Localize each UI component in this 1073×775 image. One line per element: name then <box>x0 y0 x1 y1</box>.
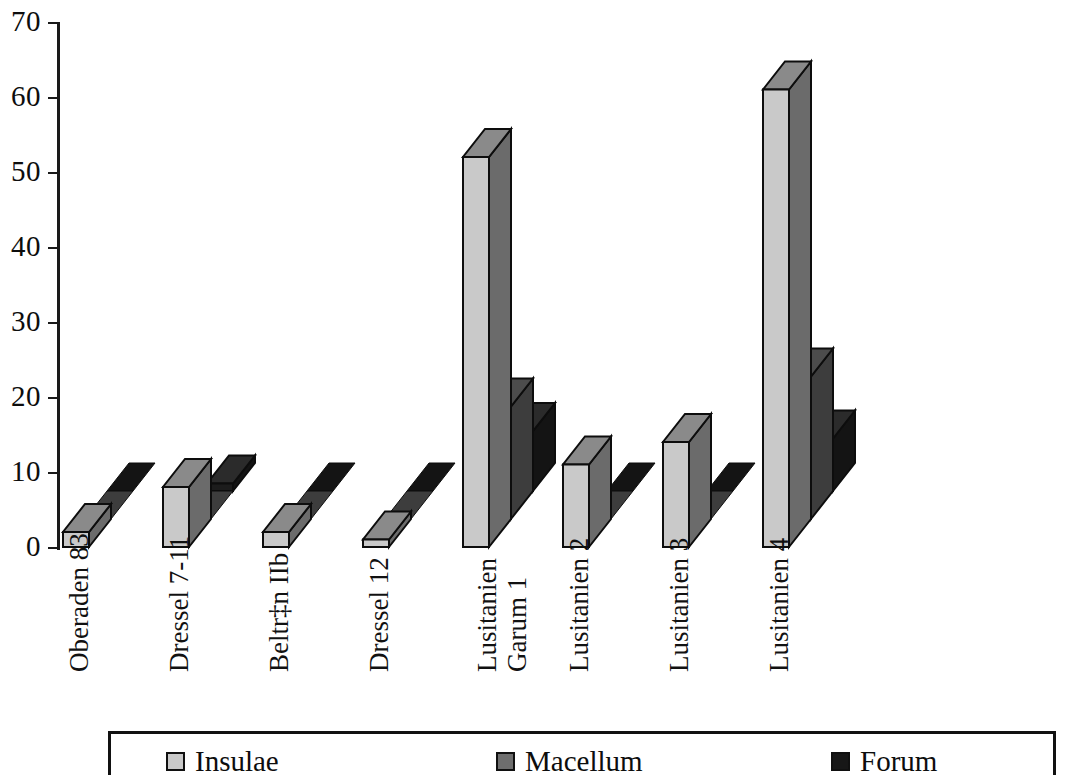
y-axis-tick-label: 10 <box>0 457 41 486</box>
legend: InsulaeMacellumForum <box>108 731 1056 775</box>
y-axis-tick <box>48 547 57 549</box>
y-axis-tick <box>48 22 57 24</box>
x-axis-label-4: LusitanienGarum 1 <box>472 558 532 672</box>
legend-item-insulae[interactable]: Insulae <box>166 744 279 775</box>
x-axis-label-6: Lusitanien 3 <box>664 538 694 672</box>
x-axis-label-0: Oberaden 83 <box>64 533 94 672</box>
bar-forum-0 <box>107 463 155 491</box>
x-axis-label-line: Lusitanien 4 <box>764 538 794 672</box>
legend-label: Insulae <box>195 746 279 775</box>
y-axis-tick <box>48 472 57 474</box>
legend-label: Forum <box>860 746 937 775</box>
x-axis-label-1: Dressel 7-11 <box>164 536 194 672</box>
bar-insulae-1 <box>163 459 211 547</box>
x-axis-label-line: Lusitanien 3 <box>664 538 694 672</box>
bar-floor <box>107 463 155 491</box>
bar-forum-6 <box>707 463 755 491</box>
x-axis-label-line: Dressel 12 <box>364 557 394 672</box>
legend-swatch-icon <box>831 752 850 771</box>
bar-side-face <box>489 129 511 547</box>
y-axis-tick-label: 30 <box>0 307 41 336</box>
legend-swatch-icon <box>166 752 185 771</box>
x-axis-label-2: Beltr‡n IIb <box>264 553 294 672</box>
legend-row: InsulaeMacellumForum <box>111 734 1053 775</box>
y-axis-tick <box>48 322 57 324</box>
plot-area <box>57 18 1057 551</box>
x-axis-label-line: Dressel 7-11 <box>164 536 194 672</box>
x-axis-label-7: Lusitanien 4 <box>764 538 794 672</box>
bar-front-face <box>463 157 489 547</box>
bars-svg <box>57 18 1057 551</box>
bar-insulae-4 <box>463 129 511 547</box>
bar-side-face <box>811 349 833 520</box>
bar-insulae-2 <box>263 504 311 547</box>
y-axis-tick <box>48 172 57 174</box>
y-axis-tick <box>48 247 57 249</box>
x-axis-label-line: Oberaden 83 <box>64 533 94 672</box>
bar-front-face <box>263 532 289 547</box>
bar-insulae-7 <box>763 62 811 548</box>
legend-item-macellum[interactable]: Macellum <box>496 744 643 775</box>
y-axis-tick-label: 20 <box>0 382 41 411</box>
bar-front-face <box>363 540 389 548</box>
bar-forum-2 <box>307 463 355 491</box>
x-axis-label-3: Dressel 12 <box>364 557 394 672</box>
bar-floor <box>707 463 755 491</box>
bar-forum-3 <box>407 463 455 491</box>
bar-floor <box>307 463 355 491</box>
chart-root: 010203040506070 Oberaden 83Dressel 7-11B… <box>0 0 1073 775</box>
y-axis-tick-label: 70 <box>0 7 41 36</box>
x-axis-label-5: Lusitanien 2 <box>564 538 594 672</box>
x-axis-label-line: Lusitanien <box>472 558 502 672</box>
bar-forum-1 <box>207 456 255 492</box>
bar-side-face <box>789 62 811 548</box>
y-axis-tick <box>48 97 57 99</box>
legend-swatch-icon <box>496 752 515 771</box>
y-axis-tick-label: 0 <box>0 532 41 561</box>
y-axis-tick-label: 60 <box>0 82 41 111</box>
bar-front-face <box>763 90 789 548</box>
legend-label: Macellum <box>525 746 643 775</box>
bar-insulae-6 <box>663 414 711 547</box>
y-axis-tick-label: 50 <box>0 157 41 186</box>
bar-front-face <box>663 442 689 547</box>
x-axis-label-line: Lusitanien 2 <box>564 538 594 672</box>
legend-item-forum[interactable]: Forum <box>831 744 937 775</box>
bar-floor <box>407 463 455 491</box>
bar-forum-5 <box>607 463 655 491</box>
bar-front-face <box>563 465 589 548</box>
bar-floor <box>607 463 655 491</box>
x-axis-label-line: Beltr‡n IIb <box>264 553 294 672</box>
x-axis-label-line: Garum 1 <box>502 558 532 672</box>
y-axis-tick <box>48 397 57 399</box>
bar-insulae-5 <box>563 437 611 548</box>
y-axis-tick-label: 40 <box>0 232 41 261</box>
bar-insulae-3 <box>363 512 411 548</box>
